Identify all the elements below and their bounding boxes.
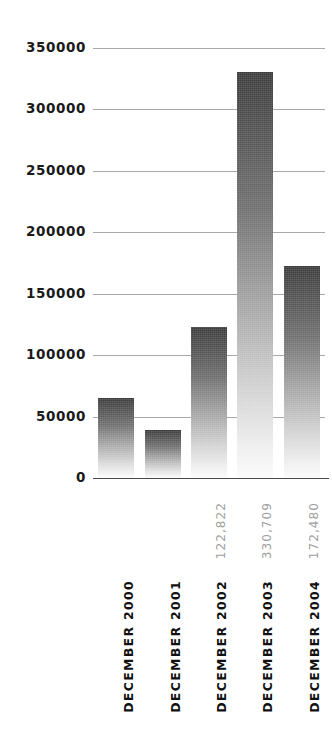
bar-chart: 3500003000002500002000001500001000005000… [0,0,332,750]
gridline [93,109,325,110]
gridline [93,232,325,233]
y-axis-tick-label: 200000 [2,226,86,240]
bar-value-label: 330,709 [261,502,273,559]
bar [237,72,273,478]
y-axis-tick-label: 350000 [2,41,86,55]
x-axis-category-label: DECEMBER 2000 [123,580,136,713]
y-axis-tick-label: 100000 [2,348,86,362]
gridline [93,171,325,172]
bar-value-label: 122,822 [215,502,227,559]
x-axis-category-label: DECEMBER 2001 [170,580,183,713]
bar [191,327,227,478]
bar-value-label: 172,480 [308,502,320,559]
y-axis-tick-label: 150000 [2,287,86,301]
y-axis-tick-label: 0 [2,471,86,485]
bar [145,430,181,478]
y-axis-tick-label: 50000 [2,410,86,424]
gridline [93,48,325,49]
x-axis-category-label: DECEMBER 2003 [262,580,275,713]
x-axis-line [93,478,329,479]
y-axis-tick-label: 300000 [2,103,86,117]
plot-area [93,48,325,478]
y-axis: 3500003000002500002000001500001000005000… [0,0,86,750]
y-axis-tick-label: 250000 [2,164,86,178]
x-axis-category-label: DECEMBER 2004 [309,580,322,713]
bar [284,266,320,478]
x-axis-category-label: DECEMBER 2002 [216,580,229,713]
bar [98,398,134,478]
